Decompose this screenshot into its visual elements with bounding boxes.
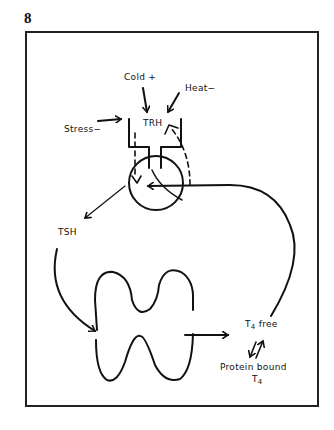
- tsh-label: TSH: [58, 227, 77, 237]
- thyroid-gland: [95, 270, 193, 380]
- protein-bound-label: Protein bound: [220, 362, 287, 372]
- protein-t4-sub: 4: [258, 378, 263, 386]
- t4-free-suffix: free: [256, 319, 278, 329]
- heat-label: Heat−: [185, 83, 215, 93]
- stress-arrow: [98, 119, 121, 121]
- stress-label: Stress−: [64, 124, 101, 134]
- trh-label: TRH: [143, 118, 162, 128]
- t4-free-label: T4 free: [245, 319, 278, 331]
- t4-feedback-loop: [148, 185, 295, 316]
- protein-bound-t4-label: T4: [252, 374, 263, 386]
- cold-label: Cold +: [124, 72, 156, 82]
- t4-bound-arrow-down: [250, 342, 256, 357]
- heat-arrow: [168, 93, 179, 112]
- t4-bound-arrow-up: [256, 341, 263, 358]
- tsh-arrow: [85, 186, 125, 218]
- tsh-to-thyroid-curve: [55, 249, 95, 331]
- cold-arrow: [143, 88, 147, 112]
